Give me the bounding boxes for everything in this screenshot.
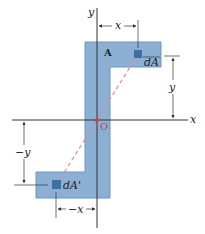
element-dA-prime-label: dA' [63,179,81,192]
dim-x-lower-label: −x [68,203,84,216]
area-label: A [103,47,112,58]
element-dA [134,50,142,58]
origin-point [95,118,99,122]
z-section-diagram: y x A O dA dA' x y −y −x [0,0,205,234]
y-axis-label: y [87,6,95,19]
dim-y-lower-label: −y [15,146,31,159]
origin-label: O [100,121,108,132]
dim-y-upper-label: y [168,81,176,94]
x-axis-label: x [190,113,197,126]
element-dA-prime [52,180,61,189]
element-dA-label: dA [144,56,159,69]
dim-x-upper-label: x [115,19,122,32]
